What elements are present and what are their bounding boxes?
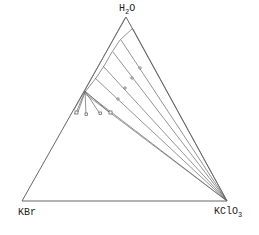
triangle-outline: [22, 17, 227, 201]
tie-lines: [76, 29, 227, 201]
vertex-label-kbr: KBr: [18, 207, 36, 218]
vertex-label-h2o: H2O: [119, 3, 135, 14]
vertex-label-kclo3: KClO3: [214, 206, 242, 217]
ternary-diagram: [0, 0, 259, 235]
kclo3-main: KClO: [214, 206, 238, 217]
h2o-o: O: [129, 3, 135, 14]
kclo3-sub: 3: [238, 211, 242, 219]
h2o-sub: 2: [125, 8, 129, 16]
